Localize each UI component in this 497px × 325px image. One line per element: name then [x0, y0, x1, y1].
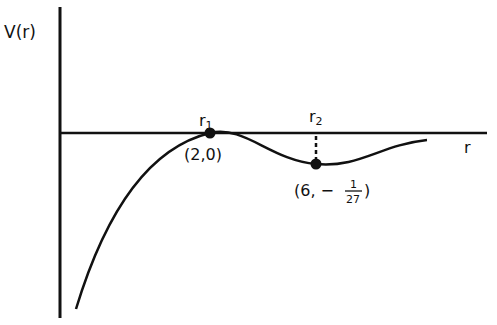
r2-coord-close: ) [364, 181, 370, 200]
potential-curve [76, 132, 427, 309]
r2-frac-num: 1 [350, 178, 357, 191]
r2-label: r2 [309, 107, 323, 128]
y-axis-label: V(r) [4, 22, 36, 42]
r1-label: r1 [199, 111, 213, 132]
potential-diagram: V(r) r r1 (2,0) r2 (6, − 1 27 ) [0, 0, 497, 325]
x-axis-label: r [464, 138, 471, 157]
r2-point [311, 159, 322, 170]
r2-frac-den: 27 [346, 193, 360, 206]
r2-coord-open: (6, − [294, 181, 334, 200]
r1-coord-label: (2,0) [184, 145, 222, 164]
